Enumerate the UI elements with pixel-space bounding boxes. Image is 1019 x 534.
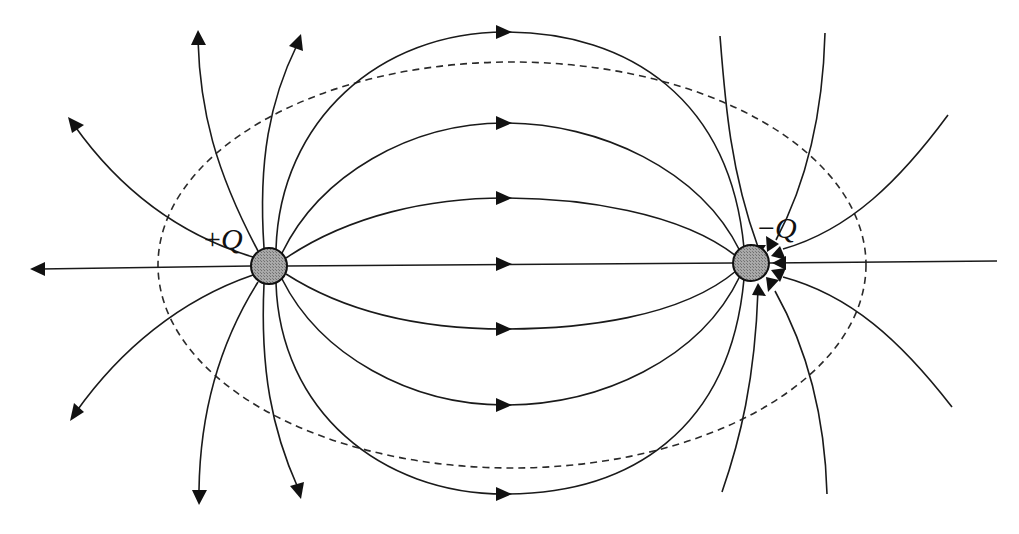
field-line-in-down-1	[722, 290, 758, 492]
field-line-in-up-2	[776, 33, 825, 240]
arrow-icon	[496, 191, 512, 205]
arrow-icon	[496, 116, 512, 130]
arrow-icon	[496, 487, 512, 501]
arrow-icon	[496, 25, 512, 39]
field-line-upper-1	[286, 198, 736, 258]
field-line-upper-2	[282, 123, 740, 253]
arrow-icon	[70, 403, 84, 421]
arrow-icon	[68, 117, 84, 133]
negative-sign: −	[758, 211, 775, 244]
arrow-icon	[289, 34, 303, 51]
field-line-in-upper-right	[783, 115, 948, 249]
arrow-icon	[192, 490, 207, 505]
field-line-upper-3	[276, 32, 744, 249]
negative-charge	[733, 245, 769, 281]
field-line-in-right	[769, 261, 997, 263]
arrow-icon	[766, 277, 779, 292]
negative-symbol: Q	[775, 211, 797, 244]
field-line-lower-2	[282, 276, 740, 405]
field-line-in-lower-right	[783, 277, 952, 407]
arrow-icon	[496, 322, 512, 336]
field-line-out-left	[40, 266, 251, 269]
positive-charge-label: +Q	[204, 222, 243, 255]
field-line-out-up-1	[198, 40, 258, 251]
arrow-icon	[752, 283, 766, 296]
field-line-lower-3	[276, 279, 744, 494]
field-line-lower-1	[286, 271, 736, 329]
field-line-in-down-2	[775, 291, 827, 494]
arrow-icon	[191, 30, 206, 45]
positive-charge	[251, 248, 287, 284]
arrow-icon	[290, 482, 304, 499]
connecting-field-lines	[276, 32, 744, 494]
direction-arrows-middle	[496, 25, 512, 501]
dipole-field-diagram: +Q −Q	[0, 0, 1019, 534]
negative-charge-label: −Q	[758, 211, 797, 244]
positive-symbol: Q	[221, 222, 243, 255]
arrow-icon	[30, 262, 45, 276]
arrow-icon	[496, 398, 512, 412]
arrow-icon	[496, 257, 512, 271]
field-line-out-down-2	[263, 284, 298, 488]
positive-sign: +	[204, 222, 221, 255]
